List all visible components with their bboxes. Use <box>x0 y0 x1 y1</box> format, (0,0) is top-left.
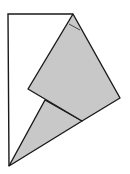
folded-paper-diagram <box>0 0 130 174</box>
